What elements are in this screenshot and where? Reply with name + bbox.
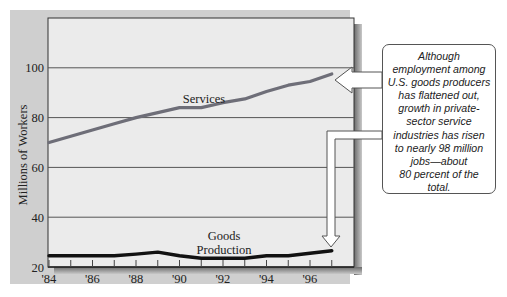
callout-text-line: employment among [385,63,493,76]
y-tick-label: 80 [32,111,45,125]
callout-text-line: sector service [385,115,493,128]
x-tick-label: '84 [42,272,58,286]
y-tick-label: 40 [32,211,45,225]
x-tick-label: '88 [129,272,144,286]
callout-text-line: U.S. goods producers [385,76,493,89]
annotation-callout: Althoughemployment amongU.S. goods produ… [382,44,496,194]
callout-text-line: industries has risen [385,129,493,142]
x-tick-label: '90 [172,272,187,286]
x-tick-label: '86 [85,272,100,286]
callout-text-line: total. [385,181,493,194]
services-series-label: Services [183,92,225,106]
callout-text-line: jobs—about [385,155,493,168]
x-tick-label: '96 [303,272,318,286]
x-tick-label: '94 [259,272,275,286]
plot-shadow-right [354,24,362,275]
y-axis-label: Millions of Workers [16,104,30,205]
callout-text-line: 80 percent of the [385,168,493,181]
y-tick-label: 100 [25,61,44,75]
plot-area [48,18,354,267]
goods-series-label-line2: Production [197,243,253,257]
callout-text-line: growth in private- [385,102,493,115]
x-tick-label: '92 [216,272,231,286]
goods-series-label-line1: Goods [208,229,241,243]
callout-text-line: Although [385,50,493,63]
callout-text-line: has flattened out, [385,89,493,102]
y-tick-label: 60 [32,161,45,175]
callout-text-line: to nearly 98 million [385,142,493,155]
